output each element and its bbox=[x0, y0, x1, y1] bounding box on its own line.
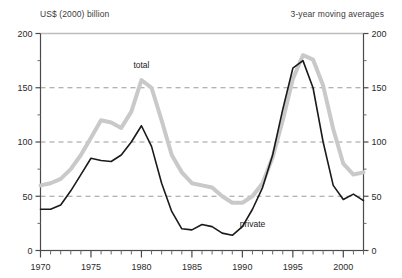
x-tick-label-1970: 1970 bbox=[30, 262, 50, 272]
series-label-private: private bbox=[240, 219, 266, 229]
y-tick-label-right-100: 100 bbox=[372, 137, 387, 147]
y-tick-label-left-50: 50 bbox=[22, 192, 32, 202]
chart-container: US$ (2000) billion 3-year moving average… bbox=[0, 0, 402, 278]
y-tick-label-left-200: 200 bbox=[17, 29, 32, 39]
y-tick-label-right-150: 150 bbox=[372, 83, 387, 93]
y-tick-label-right-0: 0 bbox=[372, 246, 377, 256]
y-tick-label-left-100: 100 bbox=[17, 137, 32, 147]
x-tick-label-1975: 1975 bbox=[81, 262, 101, 272]
series-line-private bbox=[41, 61, 364, 236]
chart-plot: 0050501001001501502002001970197519801985… bbox=[0, 0, 402, 278]
y-tick-label-left-0: 0 bbox=[27, 246, 32, 256]
series-labels: totalprivate bbox=[133, 60, 265, 228]
y-tick-label-right-50: 50 bbox=[372, 192, 382, 202]
data-series bbox=[41, 55, 364, 235]
axis-tick-labels: 0050501001001501502002001970197519801985… bbox=[17, 29, 386, 272]
series-line-total bbox=[41, 55, 364, 203]
x-tick-label-1995: 1995 bbox=[283, 262, 303, 272]
y-tick-label-left-150: 150 bbox=[17, 83, 32, 93]
series-label-total: total bbox=[133, 60, 149, 70]
x-tick-label-1985: 1985 bbox=[182, 262, 202, 272]
y-tick-label-right-200: 200 bbox=[372, 29, 387, 39]
x-tick-label-2000: 2000 bbox=[333, 262, 353, 272]
x-tick-label-1980: 1980 bbox=[131, 262, 151, 272]
x-tick-label-1990: 1990 bbox=[232, 262, 252, 272]
